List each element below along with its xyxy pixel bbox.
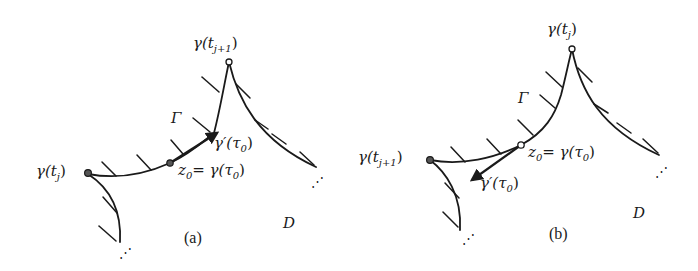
panel-b [427,46,659,230]
caption-b: (b) [549,226,568,242]
point-peak [226,59,232,65]
label-tangent: γ′(τ0) [214,136,253,154]
label-tangent: γ′(τ0) [480,176,519,194]
label-peak-point: γ(tj+1) [193,36,238,54]
point-peak [569,46,575,52]
figure-canvas: γ(tj) γ(tj+1) Γ γ′(τ0) z0= γ(τ0) D (a) ⋰… [0,0,698,271]
caption-a: (a) [184,230,202,246]
point-z0 [518,142,524,148]
label-z0: z0= γ(τ0) [178,163,245,181]
panel-a [85,59,316,242]
hatch-marks [99,77,314,241]
label-z0: z0= γ(τ0) [528,145,595,163]
label-start-point: γ(tj+1) [358,150,403,168]
ellipsis-lower: ⋰ [462,232,474,245]
ellipsis-right: ⋰ [655,165,667,178]
boundary-right-tail [572,49,659,155]
label-curve-name: Γ [518,91,528,106]
label-curve-name: Γ [171,111,181,126]
boundary-lower-tail [88,174,120,242]
diagram-svg [0,0,698,271]
label-peak-point: γ(tj) [547,22,577,40]
point-z0 [167,160,173,166]
label-domain: D [283,216,295,231]
point-start [427,157,434,164]
ellipsis-right: ⋰ [311,175,323,188]
point-start [85,170,92,177]
ellipsis-lower: ⋰ [119,246,131,259]
boundary-curve-gamma [88,62,229,176]
label-start-point: γ(tj) [36,164,66,182]
label-domain: D [633,206,645,221]
